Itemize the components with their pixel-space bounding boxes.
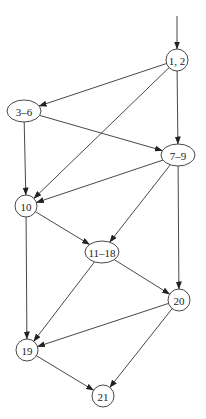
node-label: 10 (21, 201, 33, 213)
node-n10: 10 (15, 195, 37, 217)
edge-n20-to-n21 (110, 309, 172, 388)
edge-n1118-to-n20 (114, 260, 170, 295)
edge-n79-to-n1118 (110, 165, 171, 242)
edge-n12-to-n36 (39, 64, 167, 107)
edges-layer (24, 16, 179, 390)
nodes-layer: 1, 23–67–91011–18201921 (7, 49, 195, 407)
edge-n10-to-n19 (26, 217, 27, 339)
edge-n12-to-n79 (177, 71, 178, 144)
node-label: 7–9 (170, 150, 187, 162)
node-n19: 19 (16, 339, 38, 361)
node-label: 11–18 (88, 247, 116, 259)
edge-n20-to-n19 (37, 303, 168, 346)
node-n12: 1, 2 (166, 49, 188, 71)
edge-n1118-to-n19 (34, 262, 95, 341)
edge-n19-to-n21 (36, 356, 93, 391)
node-label: 19 (22, 345, 34, 357)
node-label: 1, 2 (169, 55, 186, 67)
node-label: 3–6 (16, 106, 33, 118)
node-label: 20 (174, 295, 186, 307)
edge-n10-to-n1118 (35, 212, 89, 245)
edge-n79-to-n10 (36, 160, 162, 202)
node-n21: 21 (92, 385, 114, 407)
node-n1118: 11–18 (85, 241, 119, 263)
edge-n36-to-n79 (40, 115, 163, 150)
edge-n79-to-n20 (178, 166, 179, 289)
node-label: 21 (98, 391, 109, 403)
edge-n36-to-n10 (24, 122, 26, 195)
node-n79: 7–9 (161, 144, 195, 166)
control-flow-graph: 1, 23–67–91011–18201921 (0, 0, 206, 419)
node-n36: 3–6 (7, 100, 41, 122)
node-n20: 20 (168, 289, 190, 311)
